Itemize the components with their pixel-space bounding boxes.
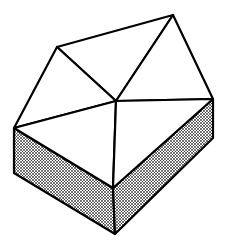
prism-figure xyxy=(0,0,226,248)
diagram-canvas xyxy=(0,0,226,248)
faces-group xyxy=(14,15,213,234)
